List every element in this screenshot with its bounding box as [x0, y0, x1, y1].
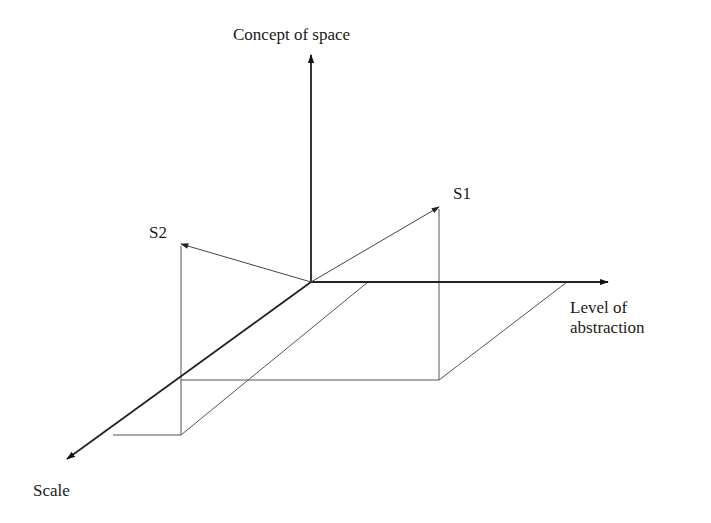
- depth-axis-scale: [67, 282, 311, 459]
- vector-s1: [311, 207, 439, 282]
- diagram-canvas: [0, 0, 711, 523]
- axis-label-concept-of-space: Concept of space: [233, 25, 350, 45]
- s1-floor-diagonal: [439, 282, 567, 380]
- axis-label-level-of-abstraction-line2: abstraction: [570, 318, 645, 338]
- vector-label-s1: S1: [453, 184, 471, 204]
- vector-label-s2: S2: [149, 223, 167, 243]
- axis-label-scale: Scale: [33, 481, 70, 501]
- projection-lines: [113, 209, 567, 435]
- axes: [67, 55, 608, 459]
- s2-floor-diagonal: [181, 282, 368, 435]
- vectors: [181, 207, 439, 282]
- axis-label-level-of-abstraction-line1: Level of: [570, 298, 627, 318]
- vector-s2: [181, 244, 311, 282]
